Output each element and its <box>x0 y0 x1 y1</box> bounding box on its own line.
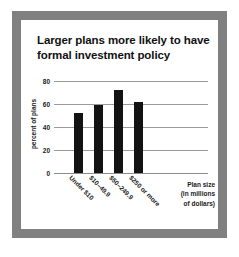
y-tick-label-0: 0 <box>46 170 50 177</box>
chart-figure-frame: Larger plans more likely to have formal … <box>12 11 227 238</box>
x-axis-title: Plan size (in millions of dollars) <box>141 180 215 208</box>
plot-area: 806040200 <box>54 81 208 173</box>
bar <box>114 90 123 173</box>
chart-title-line-2: formal investment policy <box>37 49 170 61</box>
y-tick-label-80: 80 <box>43 78 50 85</box>
bar-series <box>54 81 208 173</box>
y-axis-title: percent of plans <box>30 99 37 149</box>
x-axis-title-line-3: of dollars) <box>141 199 215 208</box>
x-axis-title-line-2: (in millions <box>141 189 215 198</box>
y-tick-label-20: 20 <box>43 147 50 154</box>
chart-title: Larger plans more likely to have formal … <box>37 33 215 62</box>
bar <box>94 105 103 173</box>
y-tick-label-40: 40 <box>43 124 50 131</box>
x-axis-title-line-1: Plan size <box>141 180 215 189</box>
bar <box>74 113 83 173</box>
y-tick-label-60: 60 <box>43 101 50 108</box>
chart-title-line-1: Larger plans more likely to have <box>37 34 210 46</box>
bar <box>134 102 143 173</box>
chart-panel: Larger plans more likely to have formal … <box>21 20 218 229</box>
